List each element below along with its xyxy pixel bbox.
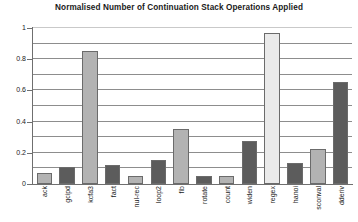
bar-slot — [124, 28, 147, 184]
bar-slot — [329, 28, 352, 184]
y-axis-tick — [27, 184, 33, 185]
bar-slot — [215, 28, 238, 184]
x-axis-tick-label: kcfa3 — [86, 186, 93, 203]
bar — [59, 167, 74, 184]
x-axis-tick-label: rotate — [200, 186, 207, 204]
bar — [173, 129, 188, 184]
x-label-slot: gcipd — [56, 186, 79, 222]
bar-slot — [33, 28, 56, 184]
x-axis-labels: ackgcipdkcfa3factnul-recloop2fibrotateco… — [33, 186, 352, 222]
bar — [105, 165, 120, 184]
bar — [82, 51, 97, 184]
x-label-slot: ack — [33, 186, 56, 222]
bar — [196, 176, 211, 184]
x-axis-tick-label: gcipd — [64, 186, 71, 203]
bar — [219, 176, 234, 184]
x-label-slot: loop2 — [147, 186, 170, 222]
bar — [264, 33, 279, 184]
x-axis-tick-label: dderiv — [337, 186, 344, 205]
bar-slot — [101, 28, 124, 184]
y-axis-tick — [27, 59, 33, 60]
y-axis-tick-label: 0.8 — [2, 55, 26, 62]
bar-chart: Normalised Number of Continuation Stack … — [0, 0, 358, 222]
bar — [128, 176, 143, 184]
x-axis-line — [28, 184, 353, 185]
y-axis-tick-label: 0.2 — [2, 149, 26, 156]
x-label-slot: kcfa3 — [79, 186, 102, 222]
x-axis-tick-label: hanoi — [291, 186, 298, 203]
x-label-slot: regex — [261, 186, 284, 222]
x-axis-tick-label: ack — [41, 186, 48, 197]
bar — [310, 149, 325, 184]
bar-slot — [238, 28, 261, 184]
x-label-slot: rotate — [192, 186, 215, 222]
bar — [333, 82, 348, 184]
bar-slot — [147, 28, 170, 184]
y-axis-tick-label: 1 — [2, 24, 26, 31]
x-label-slot: fact — [101, 186, 124, 222]
plot-area — [33, 28, 352, 184]
x-axis-tick-label: regex — [269, 186, 276, 204]
bar-slot — [284, 28, 307, 184]
y-axis-tick-label: 0.6 — [2, 86, 26, 93]
x-axis-tick-label: widen — [246, 186, 253, 204]
bar — [287, 163, 302, 184]
y-axis-tick — [27, 28, 33, 29]
y-axis-tick — [27, 122, 33, 123]
bar-slot — [261, 28, 284, 184]
bar — [37, 173, 52, 184]
y-axis-tick — [27, 90, 33, 91]
x-label-slot: dderiv — [329, 186, 352, 222]
bar-slot — [170, 28, 193, 184]
y-axis-labels: 00.20.40.60.81 — [0, 0, 26, 222]
bar — [151, 160, 166, 184]
y-axis-tick — [27, 153, 33, 154]
x-label-slot: hanoi — [284, 186, 307, 222]
x-axis-tick-label: nul-rec — [132, 186, 139, 207]
x-axis-tick-label: fact — [109, 186, 116, 197]
x-axis-tick-label: loop2 — [155, 186, 162, 203]
bar-slot — [56, 28, 79, 184]
bar-slot — [192, 28, 215, 184]
x-label-slot: fib — [170, 186, 193, 222]
x-label-slot: sconval — [306, 186, 329, 222]
y-axis-tick-label: 0.4 — [2, 118, 26, 125]
x-label-slot: nul-rec — [124, 186, 147, 222]
x-label-slot: count — [215, 186, 238, 222]
bar — [242, 141, 257, 184]
y-axis-tick-label: 0 — [2, 180, 26, 187]
chart-title: Normalised Number of Continuation Stack … — [0, 3, 358, 12]
bar-slot — [79, 28, 102, 184]
x-label-slot: widen — [238, 186, 261, 222]
x-axis-tick-label: sconval — [314, 186, 321, 210]
x-axis-tick-label: fib — [178, 186, 185, 193]
x-axis-tick-label: count — [223, 186, 230, 203]
bar-slot — [306, 28, 329, 184]
bar-series — [33, 28, 352, 184]
